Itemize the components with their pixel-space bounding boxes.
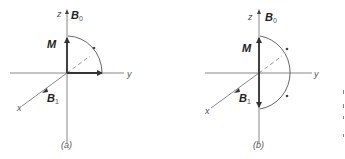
panel-b: z B0 M y x B1 (b)	[204, 9, 319, 150]
nmr-rotation-diagram: z B0 M y x B1 (a) z B0 M y x B1 (b)	[0, 0, 345, 159]
x-axis	[22, 73, 67, 106]
b0-arrowhead-icon	[257, 9, 261, 14]
m-label: M	[242, 42, 252, 54]
page-edge-mark	[343, 90, 344, 94]
panel-a: z B0 M y x B1 (a)	[10, 9, 132, 150]
b0-label: B0	[265, 11, 277, 24]
rotation-arc	[68, 36, 102, 72]
b1-label: B1	[47, 92, 59, 105]
x-axis-label: x	[204, 106, 210, 116]
b0-arrowhead-icon	[65, 9, 69, 14]
y-axis-label: y	[313, 69, 319, 79]
caption-b: (b)	[253, 140, 264, 150]
b0-label: B0	[71, 9, 83, 22]
dashed-diagonal	[259, 56, 282, 73]
caption-a: (a)	[61, 140, 72, 150]
x-axis	[211, 73, 259, 108]
arc-arrow-icon	[286, 48, 289, 51]
dashed-diagonal	[67, 56, 90, 73]
z-axis-label: z	[247, 12, 253, 22]
b1-label: B1	[239, 92, 251, 105]
rotation-arc	[260, 36, 290, 109]
page-edge-mark	[343, 104, 344, 108]
m-label: M	[47, 38, 57, 50]
page-edge-mark	[343, 116, 344, 119]
y-axis-label: y	[126, 69, 132, 79]
arc-arrow-icon	[286, 95, 289, 98]
page-edge-mark	[343, 134, 344, 137]
x-axis-label: x	[16, 103, 22, 113]
arc-arrow-icon	[93, 47, 96, 50]
z-axis-label: z	[56, 9, 62, 19]
